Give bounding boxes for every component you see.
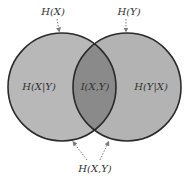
arrow-joint-right — [100, 143, 108, 160]
label-hx-given-y: H(X|Y) — [21, 81, 56, 93]
arrow-joint-left — [74, 143, 87, 160]
venn-diagram: H(X) H(Y) H(X|Y) I(X,Y) H(Y|X) H(X,Y) — [0, 0, 192, 181]
label-hy: H(Y) — [116, 6, 140, 17]
arrow-hx — [57, 19, 59, 30]
label-joint: H(X,Y) — [77, 163, 112, 174]
label-mutual-info: I(X,Y) — [80, 81, 110, 92]
label-hx: H(X) — [40, 6, 65, 17]
label-hy-given-x: H(Y|X) — [133, 81, 168, 93]
